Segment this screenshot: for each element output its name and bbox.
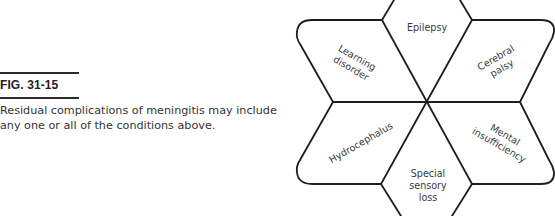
svg-text:Special: Special [411,168,446,179]
bottom-rhombus-right-edge [452,184,472,216]
segment-label-top: Epilepsy [407,22,447,33]
segment-label-bottom: Special sensory loss [409,168,447,203]
segment-label-lower-right: Mental insufficiency [471,115,535,165]
svg-text:loss: loss [419,192,438,203]
segment-label-lower-left: Hydrocephalus [327,120,394,165]
segment-label-upper-left: Learning disorder [330,42,378,83]
top-rhombus-right-edge [460,0,472,20]
segment-label-upper-right: Cerebral palsy [475,43,522,83]
svg-text:Hydrocephalus: Hydrocephalus [327,120,394,165]
svg-text:sensory: sensory [409,180,447,191]
top-rhombus-left-edge [382,0,394,20]
bottom-rhombus-left-edge [381,184,401,216]
complications-star-diagram: Epilepsy Learning disorder Cerebral pals… [0,0,555,216]
